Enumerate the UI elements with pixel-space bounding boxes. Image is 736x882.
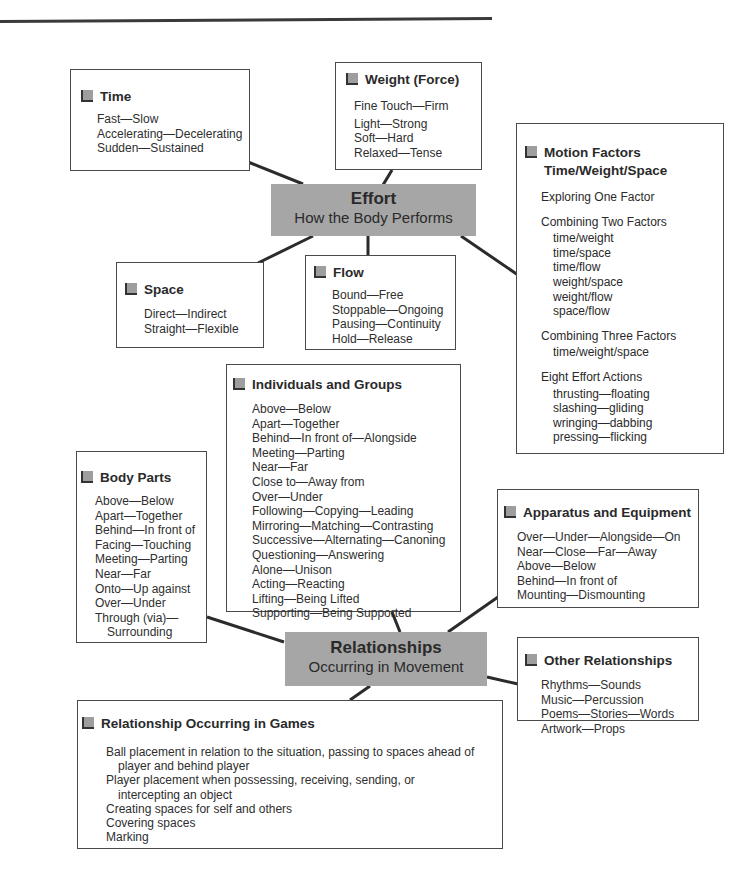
space-item: Direct—Indirect [144, 307, 263, 322]
flow-item: Pausing—Continuity [332, 317, 455, 332]
body-parts-item: Over—Under [95, 596, 206, 611]
square-bullet-icon [525, 146, 537, 158]
body-parts-item: Meeting—Parting [95, 552, 206, 567]
time-item: Fast—Slow [97, 112, 249, 127]
effort-title: Effort [271, 189, 476, 209]
flow-box: Flow Bound—Free Stoppable—Ongoing Pausin… [305, 255, 456, 350]
square-bullet-icon [81, 471, 93, 483]
weight-title: Weight (Force) [365, 71, 459, 89]
space-item: Straight—Flexible [144, 322, 263, 337]
individuals-item: Successive—Alternating—Canoning [252, 533, 460, 548]
games-entry: Player placement when possessing, receiv… [106, 773, 502, 787]
weight-item: Light—Strong [354, 117, 481, 132]
games-box: Relationship Occurring in Games Ball pla… [77, 700, 503, 849]
games-entry: Ball placement in relation to the situat… [106, 745, 502, 759]
group-item: thrusting—floating [541, 387, 723, 402]
effort-subtitle: How the Body Performs [271, 209, 476, 227]
individuals-item: Supporting—Being Supported [252, 606, 460, 621]
square-bullet-icon [82, 717, 94, 729]
apparatus-item: Near—Close—Far—Away [517, 545, 698, 560]
group-item: time/flow [541, 260, 723, 275]
body-parts-item: Apart—Together [95, 509, 206, 524]
square-bullet-icon [314, 266, 326, 278]
individuals-item: Behind—In front of—Alongside [252, 431, 460, 446]
apparatus-item: Over—Under—Alongside—On [517, 530, 698, 545]
other-relationships-item: Poems—Stories—Words [541, 707, 698, 722]
square-bullet-icon [525, 654, 537, 666]
individuals-item: Meeting—Parting [252, 446, 460, 461]
motion-group-two: Combining Two Factors time/weight time/s… [541, 215, 723, 319]
body-parts-box: Body Parts Above—Below Apart—Together Be… [76, 451, 207, 643]
individuals-item: Following—Copying—Leading [252, 504, 460, 519]
individuals-item: Over—Under [252, 490, 460, 505]
games-entry: Creating spaces for self and others [106, 802, 502, 816]
games-entry: Covering spaces [106, 816, 502, 830]
other-relationships-item: Artwork—Props [541, 722, 698, 737]
motion-factors-box: Motion FactorsTime/Weight/Space Explorin… [516, 123, 724, 454]
space-box: Space Direct—Indirect Straight—Flexible [116, 262, 264, 348]
motion-group-eight: Eight Effort Actions thrusting—floating … [541, 370, 723, 445]
individuals-item: Above—Below [252, 402, 460, 417]
individuals-item: Alone—Unison [252, 563, 460, 578]
group-item: time/space [541, 246, 723, 261]
individuals-item: Apart—Together [252, 417, 460, 432]
group-heading: Combining Two Factors [541, 215, 723, 230]
other-relationships-item: Music—Percussion [541, 693, 698, 708]
individuals-groups-title: Individuals and Groups [252, 376, 402, 394]
group-item: weight/space [541, 275, 723, 290]
time-box: Time Fast—Slow Accelerating—Decelerating… [70, 69, 250, 171]
group-item: pressing—flicking [541, 430, 723, 445]
time-title: Time [100, 88, 131, 106]
other-relationships-title: Other Relationships [544, 652, 672, 670]
games-entry-continuation: intercepting an object [106, 788, 502, 802]
relationships-title: Relationships [285, 638, 487, 658]
motion-factors-subtitle: Time/Weight/Space [544, 163, 667, 178]
games-title: Relationship Occurring in Games [101, 715, 315, 733]
weight-item: Fine Touch—Firm [354, 99, 481, 114]
relationships-subtitle: Occurring in Movement [285, 658, 487, 676]
body-parts-item: Onto—Up against [95, 582, 206, 597]
body-parts-item: Through (via)— [95, 611, 206, 626]
motion-factors-title: Motion Factors [544, 145, 641, 160]
body-parts-item: Near—Far [95, 567, 206, 582]
individuals-item: Close to—Away from [252, 475, 460, 490]
flow-title: Flow [333, 264, 364, 282]
individuals-groups-box: Individuals and Groups Above—Below Apart… [226, 364, 461, 612]
square-bullet-icon [346, 73, 358, 85]
apparatus-box: Apparatus and Equipment Over—Under—Along… [497, 489, 699, 608]
square-bullet-icon [504, 506, 516, 518]
group-item: slashing—gliding [541, 401, 723, 416]
flow-item: Hold—Release [332, 332, 455, 347]
flow-item: Stoppable—Ongoing [332, 303, 455, 318]
group-heading: Eight Effort Actions [541, 370, 723, 385]
square-bullet-icon [125, 283, 137, 295]
body-parts-continuation: Surrounding [95, 625, 206, 640]
other-relationships-box: Other Relationships Rhythms—Sounds Music… [517, 637, 699, 721]
individuals-item: Near—Far [252, 460, 460, 475]
body-parts-item: Behind—In front of [95, 523, 206, 538]
group-item: time/weight [541, 231, 723, 246]
effort-hub: Effort How the Body Performs [271, 184, 476, 236]
space-title: Space [144, 281, 184, 299]
group-heading: Exploring One Factor [541, 190, 723, 205]
group-item: space/flow [541, 304, 723, 319]
individuals-item: Acting—Reacting [252, 577, 460, 592]
flow-item: Bound—Free [332, 288, 455, 303]
weight-item: Relaxed—Tense [354, 146, 481, 161]
apparatus-item: Above—Below [517, 559, 698, 574]
group-item: wringing—dabbing [541, 416, 723, 431]
weight-item: Soft—Hard [354, 131, 481, 146]
apparatus-item: Mounting—Dismounting [517, 588, 698, 603]
weight-box: Weight (Force) Fine Touch—Firm Light—Str… [335, 62, 482, 170]
time-item: Accelerating—Decelerating [97, 127, 249, 142]
individuals-item: Questioning—Answering [252, 548, 460, 563]
group-heading: Combining Three Factors [541, 329, 723, 344]
relationships-hub: Relationships Occurring in Movement [285, 632, 487, 686]
motion-group-three: Combining Three Factors time/weight/spac… [541, 329, 723, 360]
individuals-item: Mirroring—Matching—Contrasting [252, 519, 460, 534]
games-entry-continuation: player and behind player [106, 759, 502, 773]
body-parts-title: Body Parts [100, 469, 171, 487]
body-parts-item: Facing—Touching [95, 538, 206, 553]
individuals-item: Lifting—Being Lifted [252, 592, 460, 607]
body-parts-item: Above—Below [95, 494, 206, 509]
